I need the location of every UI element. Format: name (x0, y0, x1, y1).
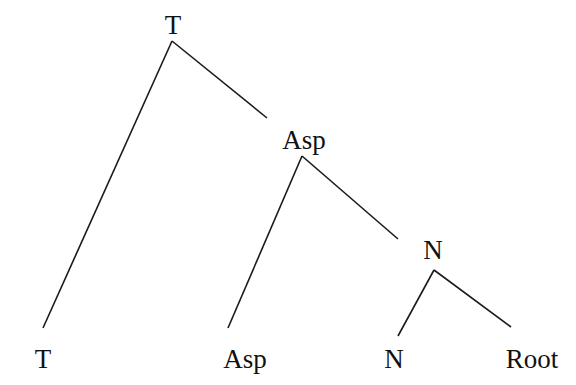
node-Asp-mid: Asp (282, 127, 326, 154)
node-Root-leaf: Root (506, 346, 559, 373)
edge-Asp-to-Asp-leaf (228, 156, 302, 328)
tree-diagram (0, 0, 576, 385)
edge-N-to-N-leaf (398, 270, 434, 336)
edge-N-to-Root (434, 270, 511, 327)
edge-T-to-T-leaf (43, 41, 172, 328)
node-N-mid: N (423, 237, 443, 264)
node-Asp-leaf: Asp (223, 346, 267, 373)
node-N-leaf: N (384, 346, 404, 373)
edge-Asp-to-N (302, 156, 398, 239)
edge-T-to-Asp (172, 41, 267, 118)
node-T-top: T (165, 12, 182, 39)
node-T-leaf: T (35, 346, 52, 373)
